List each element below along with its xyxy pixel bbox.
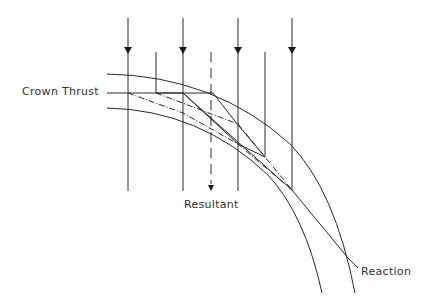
arrow-head-icon: [124, 47, 132, 54]
reaction-label: Reaction: [361, 265, 411, 278]
resultant-label: Resultant: [184, 198, 239, 211]
arrow-head-icon: [179, 47, 187, 54]
reaction-line: [183, 93, 358, 268]
resultant-arrow-head-icon: [208, 185, 214, 191]
arrow-head-icon: [234, 47, 242, 54]
arch-thrust-diagram: [0, 0, 442, 300]
arrow-head-icon: [288, 47, 296, 54]
crown-thrust-label: Crown Thrust: [22, 85, 99, 98]
arch-extrados-curve: [107, 74, 355, 293]
thrust-line-dashdot-1: [128, 93, 292, 190]
